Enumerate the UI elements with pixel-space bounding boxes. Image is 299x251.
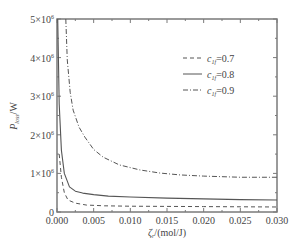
y-axis-tick-labels: 01×1062×1063×1064×1065×106 (30, 14, 54, 218)
x-tick-label: 0.025 (229, 215, 252, 226)
x-tick-label: 0.005 (82, 215, 105, 226)
legend-label: c1f=0.7 (207, 53, 234, 65)
y-tick-label: 4×106 (30, 53, 54, 64)
x-axis-label: ζr/(mol/J) (148, 227, 186, 239)
series-layer (58, 19, 277, 207)
x-axis-ticks (57, 19, 277, 212)
x-tick-label: 0.015 (156, 215, 179, 226)
y-axis-ticks (57, 19, 277, 212)
chart: 0.0000.0050.0100.0150.0200.0250.030 01×1… (0, 0, 299, 251)
y-tick-label: 3×106 (30, 91, 54, 102)
legend-label: c1f=0.8 (207, 69, 234, 81)
y-axis-label: Ploss/W (8, 102, 20, 131)
series-line-0-8 (58, 19, 277, 200)
x-tick-label: 0.010 (119, 215, 142, 226)
plot-area (57, 19, 277, 212)
series-line-0-7 (59, 154, 277, 207)
legend-item: c1f=0.9 (183, 85, 234, 97)
y-tick-label: 5×106 (30, 14, 54, 25)
plot-frame (57, 19, 277, 212)
series-line-0-9 (66, 19, 277, 177)
legend-item: c1f=0.7 (183, 53, 234, 65)
legend-item: c1f=0.8 (183, 69, 234, 81)
x-axis-tick-labels: 0.0000.0050.0100.0150.0200.0250.030 (46, 215, 289, 226)
y-tick-label: 2×106 (30, 130, 54, 141)
legend-label: c1f=0.9 (207, 85, 234, 97)
legend: c1f=0.7c1f=0.8c1f=0.9 (183, 53, 234, 97)
y-tick-label: 1×106 (30, 168, 54, 179)
x-tick-label: 0.030 (266, 215, 289, 226)
y-tick-label: 0 (49, 207, 54, 218)
x-tick-label: 0.020 (192, 215, 215, 226)
